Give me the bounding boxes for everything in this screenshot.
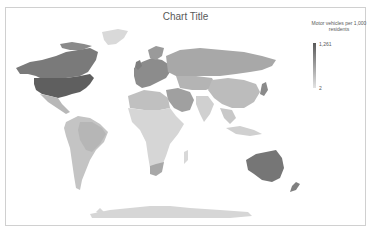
legend-title: Motor vehicles per 1,000 residents	[309, 20, 369, 32]
region-madagascar[interactable]	[184, 150, 188, 164]
region-indonesia[interactable]	[226, 126, 262, 136]
region-china[interactable]	[208, 78, 260, 108]
region-antarctica[interactable]	[90, 206, 252, 218]
region-africa[interactable]	[128, 108, 184, 172]
legend-gradient-bar	[313, 43, 316, 88]
region-japan[interactable]	[260, 82, 268, 96]
region-scandinavia[interactable]	[148, 46, 164, 60]
legend-min-label: 2	[319, 85, 322, 91]
region-russia[interactable]	[166, 48, 276, 76]
region-southeast-asia[interactable]	[220, 108, 236, 124]
region-india[interactable]	[196, 96, 214, 122]
region-canada[interactable]	[16, 48, 98, 78]
region-north-africa[interactable]	[128, 90, 170, 110]
region-australia[interactable]	[246, 150, 284, 182]
region-greenland[interactable]	[102, 29, 128, 45]
region-new-zealand[interactable]	[290, 182, 300, 192]
world-map	[0, 0, 373, 231]
legend-max-label: 1,261	[319, 41, 332, 47]
